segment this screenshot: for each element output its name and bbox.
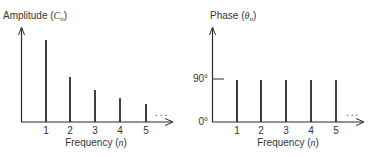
phase-x-label: Frequency (n) bbox=[257, 137, 319, 148]
x-tick-label: 5 bbox=[333, 125, 339, 136]
amplitude-y-label: Amplitude (Cn) bbox=[3, 10, 67, 23]
phase-bars bbox=[237, 80, 336, 122]
x-tick-label: 4 bbox=[308, 125, 314, 136]
amplitude-continuation: ... bbox=[155, 107, 169, 118]
x-tick-label: 2 bbox=[67, 125, 73, 136]
amplitude-x-ticks: 12345 bbox=[43, 125, 149, 136]
x-tick-label: 2 bbox=[258, 125, 264, 136]
phase-ytick-0: 0° bbox=[198, 116, 208, 127]
amplitude-chart: Amplitude (Cn) 12345 ... Frequency (n) bbox=[3, 10, 173, 148]
x-tick-label: 3 bbox=[92, 125, 98, 136]
phase-ytick-90: 90° bbox=[193, 73, 208, 84]
phase-y-label: Phase (θn) bbox=[210, 10, 256, 23]
phase-x-ticks: 12345 bbox=[234, 125, 339, 136]
phase-chart: Phase (θn) 90° 0° 12345 ... Frequency (n… bbox=[193, 10, 364, 148]
x-tick-label: 1 bbox=[234, 125, 240, 136]
x-tick-label: 3 bbox=[283, 125, 289, 136]
x-tick-label: 5 bbox=[143, 125, 149, 136]
phase-continuation: ... bbox=[346, 107, 360, 118]
x-tick-label: 4 bbox=[117, 125, 123, 136]
amplitude-bars bbox=[46, 40, 146, 122]
spectrum-figure: Amplitude (Cn) 12345 ... Frequency (n) P… bbox=[0, 0, 375, 157]
amplitude-x-label: Frequency (n) bbox=[65, 137, 127, 148]
x-tick-label: 1 bbox=[43, 125, 49, 136]
